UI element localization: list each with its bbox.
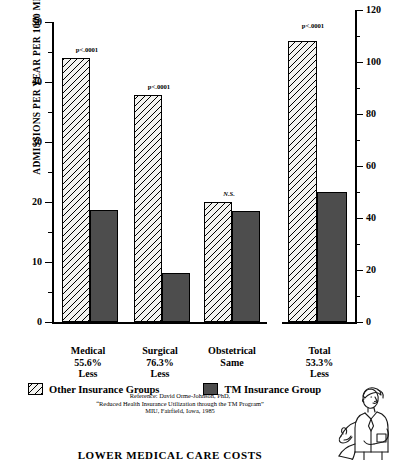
category-sub-medical-less: Less [52, 368, 124, 380]
left-axis-ticklabel-50: 50 [16, 17, 42, 27]
bar-group-total: p<.0001 [282, 10, 357, 322]
reference-block: Reference: David Orme-Johnson, PhD, “Red… [0, 392, 360, 415]
annotation-surgical: p<.0001 [130, 83, 188, 90]
left-axis-ticklabel-0: 0 [16, 317, 42, 327]
category-label-medical: Medical 55.6% Less [52, 345, 124, 380]
chart-plot-area: 50 40 30 20 10 0 p<.0001 p<.0001 N.S. 12… [0, 0, 406, 340]
seated-doctor-illustration-icon [330, 382, 406, 460]
right-axis-ticklabel-20: 20 [366, 265, 396, 275]
bar-medical-other-insurance [62, 58, 90, 322]
category-label-surgical: Surgical 76.3% Less [124, 345, 196, 380]
category-sub-medical-pct: 55.6% [52, 357, 124, 369]
right-axis-ticklabel-100: 100 [366, 57, 396, 67]
left-axis-ticklabel-20: 20 [16, 197, 42, 207]
left-axis-ticklabel-30: 30 [16, 137, 42, 147]
category-name-surgical: Surgical [124, 345, 196, 357]
category-name-total: Total [282, 345, 357, 357]
annotation-total: p<.0001 [284, 22, 342, 29]
bar-medical-tm-insurance [90, 210, 118, 322]
right-axis-ticklabel-60: 60 [366, 161, 396, 171]
category-name-medical: Medical [52, 345, 124, 357]
category-name-obstetrical: Obstetrical [192, 345, 272, 357]
annotation-obstetrical: N.S. [200, 190, 258, 197]
bar-obstetrical-other-insurance [204, 202, 232, 322]
bar-surgical-other-insurance [134, 95, 162, 322]
main-panel-baseline [52, 322, 267, 324]
category-sub-total-less: Less [282, 368, 357, 380]
bar-group-medical: p<.0001 [52, 22, 124, 322]
right-axis-ticklabel-80: 80 [366, 109, 396, 119]
category-label-obstetrical: Obstetrical Same [192, 345, 272, 368]
right-axis-ticklabel-0: 0 [366, 317, 396, 327]
total-panel-baseline [282, 322, 357, 324]
reference-line-1: Reference: David Orme-Johnson, PhD, [0, 392, 360, 400]
annotation-medical: p<.0001 [58, 46, 116, 53]
left-axis-ticklabel-40: 40 [16, 77, 42, 87]
reference-line-2: “Reduced Health Insurance Utilization th… [0, 400, 360, 408]
bar-group-obstetrical: N.S. [196, 22, 268, 322]
bar-total-tm-insurance [317, 192, 347, 322]
category-sub-total-pct: 53.3% [282, 357, 357, 369]
bar-total-other-insurance [288, 41, 317, 322]
bar-obstetrical-tm-insurance [232, 211, 260, 322]
category-sub-surgical-less: Less [124, 368, 196, 380]
right-axis-ticklabel-40: 40 [366, 213, 396, 223]
left-axis-ticklabel-10: 10 [16, 257, 42, 267]
right-axis-ticklabel-120: 120 [366, 5, 396, 15]
reference-line-3: MIU, Fairfield, Iowa, 1985 [0, 407, 360, 415]
category-sub-obstetrical-same: Same [192, 357, 272, 369]
bar-surgical-tm-insurance [162, 273, 190, 322]
bar-group-surgical: p<.0001 [124, 22, 196, 322]
category-sub-surgical-pct: 76.3% [124, 357, 196, 369]
page-caption: LOWER MEDICAL CARE COSTS [0, 449, 340, 460]
category-label-total: Total 53.3% Less [282, 345, 357, 380]
